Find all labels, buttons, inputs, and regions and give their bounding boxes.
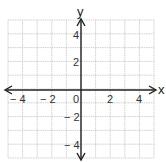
x-tick-label: 2 [107, 93, 113, 105]
y-tick-label: 2 [73, 56, 79, 68]
y-axis-label: y [77, 4, 84, 19]
x-tick-label: − 4 [10, 93, 26, 105]
x-tick-label: 4 [136, 93, 142, 105]
y-tick-label: 4 [73, 29, 79, 41]
x-tick-label: − 2 [40, 93, 56, 105]
x-axis-label: x [158, 82, 165, 97]
origin-label: 0 [73, 93, 79, 105]
y-tick-label: − 2 [64, 111, 80, 123]
coordinate-plane: x y − 4 − 2 0 2 4 4 2 − 2 − 4 [0, 0, 166, 162]
y-tick-label: − 4 [64, 139, 80, 151]
axes [5, 19, 156, 160]
